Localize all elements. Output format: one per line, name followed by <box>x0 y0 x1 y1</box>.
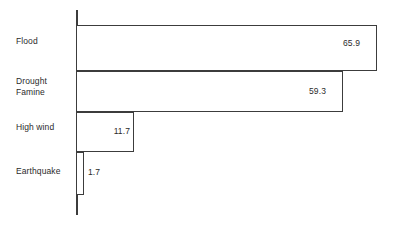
bar-value-label: 65.9 <box>80 39 360 48</box>
bar-earthquake <box>76 152 84 195</box>
bar-value-label: 59.3 <box>80 87 326 96</box>
bar-value-label: 1.7 <box>88 168 100 177</box>
category-label-drought-famine: Drought Famine <box>16 76 47 98</box>
category-label-high-wind: High wind <box>16 122 54 133</box>
category-label-earthquake: Earthquake <box>16 166 60 177</box>
bar-chart: 65.9Flood59.3Drought Famine11.7High wind… <box>0 0 394 232</box>
plot-area: 65.9Flood59.3Drought Famine11.7High wind… <box>0 0 394 232</box>
bar-value-label: 11.7 <box>80 127 130 136</box>
bar-flood <box>76 25 377 71</box>
category-label-flood: Flood <box>16 36 38 47</box>
